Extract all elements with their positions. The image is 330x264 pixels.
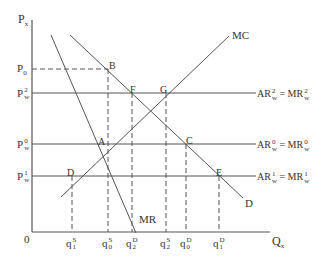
p0-sub: 0 [23,69,27,77]
q0s-sub: 0 [109,244,113,251]
p0-label: P0 [17,63,27,74]
q0d-base: q [180,237,186,249]
ar2-eq: = [279,88,285,99]
q1d-sub: 1 [220,244,225,251]
q0s-base: q [102,237,108,249]
y-axis-label-base: P [18,12,25,26]
ar0-mr0-label: AR0w = MR0w [257,139,309,153]
pw0-base: P [17,138,23,150]
ar1-mr1-label: AR1w = MR1w [257,171,309,185]
q1d-base: q [213,237,219,249]
q0d-label: qD0 [180,237,192,251]
point-c-label: C [186,135,193,146]
q2d-label: qD2 [126,237,138,251]
pw1-base: P [17,170,23,182]
point-b-label: B [109,60,116,71]
mr1-base: MR [288,171,304,182]
q1d-label: qD1 [213,237,225,251]
ar1-eq: = [279,171,285,182]
mr2-base: MR [288,88,304,99]
ar1-sub: w [272,178,277,185]
mr-label: MR [139,214,156,225]
mr1-scripts: 1w [304,171,309,185]
pw2-scripts: 2w [24,87,29,101]
x-axis-label: Qx [272,236,284,247]
ar0-scripts: 0w [272,139,277,153]
y-axis-label-sub: x [25,20,29,28]
pw2-base: P [17,87,23,99]
origin-label: 0 [24,234,30,245]
x-axis-label-base: Q [272,234,281,248]
q2s-scripts: S2 [167,237,171,251]
q2d-sub: 2 [133,244,138,251]
y-axis-label: Px [18,14,28,25]
pw0-scripts: 0w [24,138,29,152]
pw0-sub: w [24,145,29,152]
q0s-label: qS0 [102,237,112,251]
ar0-base: AR [257,139,271,150]
mc-label: MC [232,30,249,41]
q0d-sub: 0 [187,244,192,251]
ar1-base: AR [257,171,271,182]
pw2-label: P2w [17,87,29,101]
q2s-base: q [160,237,166,249]
ar1-scripts: 1w [272,171,277,185]
ar2-base: AR [257,88,271,99]
point-e-label: E [216,167,222,178]
q2d-scripts: D2 [133,237,138,251]
pw1-scripts: 1w [24,170,29,184]
point-g-label: G [160,84,167,95]
mr2-sub: w [304,95,309,102]
q1s-scripts: S1 [73,237,77,251]
pw1-sub: w [24,177,29,184]
mr0-scripts: 0w [304,139,309,153]
mr0-base: MR [288,139,304,150]
ar0-eq: = [279,139,285,150]
q1s-sub: 1 [73,244,77,251]
point-d-label: D [67,167,74,178]
mr2-scripts: 2w [304,88,309,102]
x-axis-label-sub: x [281,242,285,250]
d-label: D [245,198,253,209]
mr-curve [51,35,136,233]
pw1-label: P1w [17,170,29,184]
q0s-scripts: S0 [109,237,113,251]
mr0-sub: w [304,146,309,153]
q2d-base: q [126,237,132,249]
mr1-sub: w [304,178,309,185]
pw0-label: P0w [17,138,29,152]
point-a-label: A [98,136,105,147]
point-f-label: F [130,84,136,95]
ar2-scripts: 2w [272,88,277,102]
ar2-mr2-label: AR2w = MR2w [257,88,309,102]
diagram-canvas [0,0,330,264]
q2s-sub: 2 [167,244,171,251]
q2s-label: qS2 [160,237,170,251]
ar0-sub: w [272,146,277,153]
ar2-sub: w [272,95,277,102]
q1s-base: q [66,237,72,249]
q1s-label: qS1 [66,237,76,251]
pw2-sub: w [24,94,29,101]
q0d-scripts: D0 [187,237,192,251]
q1d-scripts: D1 [220,237,225,251]
